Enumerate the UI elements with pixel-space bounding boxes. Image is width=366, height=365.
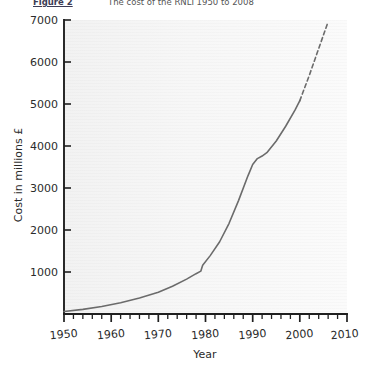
chart-svg: 1000 2000 3000 4000 5000 6000 7000 1950 … bbox=[0, 0, 366, 365]
x-tick-label: 1980 bbox=[191, 327, 220, 342]
series-line-actual bbox=[64, 101, 300, 312]
x-axis-major-ticks bbox=[64, 314, 347, 322]
y-axis-tick-labels: 1000 2000 3000 4000 5000 6000 7000 bbox=[30, 14, 58, 279]
axis-lines bbox=[64, 20, 347, 314]
x-tick-label: 1960 bbox=[96, 327, 125, 342]
y-tick-label: 1000 bbox=[30, 266, 58, 279]
x-axis-title: Year bbox=[192, 348, 217, 361]
y-tick-label: 5000 bbox=[30, 98, 58, 111]
y-tick-label: 3000 bbox=[30, 182, 58, 195]
y-tick-label: 7000 bbox=[30, 14, 58, 27]
x-axis-tick-labels: 1950 1960 1970 1980 1990 2000 2010 bbox=[49, 327, 359, 342]
series-line-projected bbox=[300, 22, 328, 101]
x-tick-label: 1950 bbox=[49, 327, 78, 342]
y-axis-ticks bbox=[64, 20, 71, 272]
y-tick-label: 4000 bbox=[30, 140, 58, 153]
line-chart: 1000 2000 3000 4000 5000 6000 7000 1950 … bbox=[0, 0, 366, 365]
x-tick-label: 1970 bbox=[143, 327, 172, 342]
x-tick-label: 1990 bbox=[238, 327, 267, 342]
y-tick-label: 2000 bbox=[30, 224, 58, 237]
x-tick-label: 2000 bbox=[285, 327, 314, 342]
x-tick-label: 2010 bbox=[330, 327, 359, 342]
y-tick-label: 6000 bbox=[30, 56, 58, 69]
y-axis-title: Cost in millions £ bbox=[12, 128, 25, 222]
